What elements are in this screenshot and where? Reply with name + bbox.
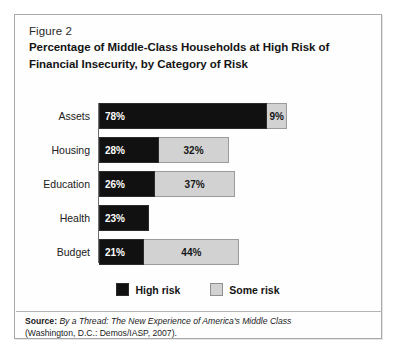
bar-segment-high-risk: 21% <box>99 239 144 265</box>
legend-label-some-risk: Some risk <box>229 284 279 296</box>
bar-row: Education26%37% <box>99 171 235 197</box>
source-divider <box>16 311 382 312</box>
chart-plot-area: Assets78%9%Housing28%32%Education26%37%H… <box>99 103 369 273</box>
bar-segment-some-risk: 32% <box>159 137 228 163</box>
chart-legend: High risk Some risk <box>15 283 381 296</box>
figure-panel: Figure 2 Percentage of Middle-Class Hous… <box>14 14 382 339</box>
legend-label-high-risk: High risk <box>135 284 180 296</box>
legend-swatch-some-risk <box>210 283 223 296</box>
bar-segment-high-risk: 28% <box>99 137 159 163</box>
source-publication: (Washington, D.C.: Demos/IASP, 2007). <box>25 328 177 338</box>
bar-segment-some-risk: 37% <box>155 171 235 197</box>
bar-chart: Assets78%9%Housing28%32%Education26%37%H… <box>15 89 381 279</box>
bar-category-label: Health <box>60 205 99 231</box>
source-label: Source: <box>25 316 57 326</box>
legend-item-some-risk: Some risk <box>210 283 279 296</box>
source-note: Source: By a Thread: The New Experience … <box>15 316 383 339</box>
source-title: By a Thread: The New Experience of Ameri… <box>59 316 291 326</box>
bar-category-label: Housing <box>51 137 99 163</box>
bar-row: Housing28%32% <box>99 137 229 163</box>
bar-row: Health23% <box>99 205 149 231</box>
figure-header: Figure 2 Percentage of Middle-Class Hous… <box>15 15 381 72</box>
bar-segment-some-risk: 9% <box>267 103 286 129</box>
legend-item-high-risk: High risk <box>116 283 180 296</box>
figure-title-line-1: Percentage of Middle-Class Households at… <box>29 40 367 56</box>
bar-row: Budget21%44% <box>99 239 239 265</box>
bar-row: Assets78%9% <box>99 103 287 129</box>
figure-title-line-2: Financial Insecurity, by Category of Ris… <box>29 57 367 73</box>
figure-number: Figure 2 <box>29 24 367 39</box>
legend-swatch-high-risk <box>116 283 129 296</box>
bar-segment-some-risk: 44% <box>144 239 239 265</box>
bar-category-label: Assets <box>58 103 99 129</box>
bar-segment-high-risk: 78% <box>99 103 267 129</box>
bar-category-label: Budget <box>57 239 99 265</box>
bar-segment-high-risk: 23% <box>99 205 149 231</box>
bar-segment-high-risk: 26% <box>99 171 155 197</box>
bar-category-label: Education <box>43 171 99 197</box>
